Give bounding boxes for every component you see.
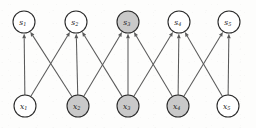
arrowhead bbox=[126, 34, 130, 39]
arrowhead bbox=[22, 34, 26, 39]
node-s1[interactable]: s1 bbox=[13, 11, 35, 33]
node-subscript-s2: 2 bbox=[74, 21, 78, 27]
node-subscript-s4: 4 bbox=[177, 21, 181, 27]
arrowhead bbox=[30, 32, 34, 37]
node-x2[interactable]: x2 bbox=[67, 95, 89, 117]
edge-x1-to-s1 bbox=[22, 34, 26, 95]
node-s5[interactable]: s5 bbox=[218, 11, 240, 33]
node-x4[interactable]: x4 bbox=[167, 95, 189, 117]
node-subscript-x3: 3 bbox=[127, 105, 130, 111]
edge-layer bbox=[22, 32, 230, 97]
node-x1[interactable]: x1 bbox=[14, 95, 36, 117]
edge-x4-to-s4 bbox=[177, 34, 181, 95]
node-s3[interactable]: s3 bbox=[117, 11, 139, 33]
node-s4[interactable]: s4 bbox=[168, 11, 190, 33]
figure-canvas: s1s2s3s4s5x1x2x3x4x5 bbox=[0, 0, 256, 128]
node-s2[interactable]: s2 bbox=[65, 11, 87, 33]
node-layer: s1s2s3s4s5x1x2x3x4x5 bbox=[13, 11, 240, 117]
arrowhead bbox=[177, 34, 181, 39]
node-subscript-s5: 5 bbox=[228, 21, 231, 27]
edge-x2-to-s2 bbox=[74, 34, 78, 95]
edge-x5-to-s5 bbox=[227, 34, 231, 95]
arrowhead bbox=[74, 34, 78, 39]
node-subscript-x5: 5 bbox=[227, 105, 230, 111]
directed-graph-diagram: s1s2s3s4s5x1x2x3x4x5 bbox=[0, 0, 256, 128]
arrowhead bbox=[227, 34, 231, 39]
node-x5[interactable]: x5 bbox=[217, 95, 239, 117]
node-subscript-x2: 2 bbox=[76, 105, 80, 111]
edge-x3-to-s3 bbox=[126, 34, 130, 95]
node-subscript-x4: 4 bbox=[176, 105, 180, 111]
node-subscript-s1: 1 bbox=[23, 21, 26, 27]
node-subscript-x1: 1 bbox=[24, 105, 27, 111]
node-subscript-s3: 3 bbox=[127, 21, 130, 27]
node-x3[interactable]: x3 bbox=[117, 95, 139, 117]
